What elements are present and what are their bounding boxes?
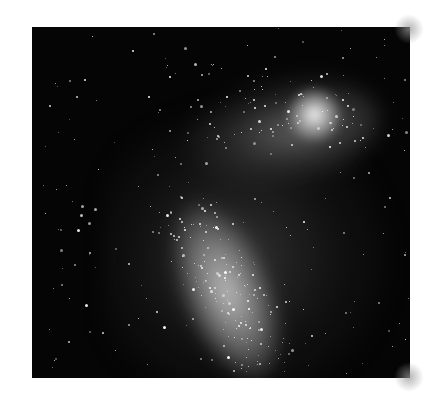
star bbox=[345, 312, 347, 314]
star bbox=[305, 343, 306, 344]
star bbox=[399, 323, 400, 324]
star bbox=[228, 302, 231, 305]
star bbox=[96, 100, 97, 101]
star bbox=[342, 99, 344, 101]
star bbox=[43, 185, 44, 186]
star bbox=[203, 198, 204, 199]
star bbox=[165, 58, 166, 59]
star bbox=[49, 329, 50, 330]
star bbox=[254, 198, 256, 200]
star bbox=[212, 65, 213, 66]
star bbox=[235, 320, 236, 321]
star bbox=[205, 162, 208, 165]
star bbox=[285, 323, 286, 324]
star bbox=[404, 150, 405, 151]
star bbox=[378, 302, 380, 304]
star bbox=[329, 122, 331, 124]
star bbox=[253, 142, 256, 145]
star bbox=[240, 322, 242, 324]
star bbox=[98, 169, 99, 170]
star bbox=[55, 358, 57, 360]
star bbox=[262, 89, 263, 90]
star bbox=[270, 336, 271, 337]
star bbox=[341, 30, 342, 31]
star bbox=[246, 371, 247, 372]
star bbox=[404, 79, 406, 81]
star bbox=[339, 142, 341, 144]
star bbox=[153, 33, 155, 35]
star bbox=[223, 329, 224, 330]
star bbox=[384, 45, 385, 46]
star bbox=[282, 342, 283, 343]
star bbox=[360, 140, 361, 141]
star bbox=[246, 342, 247, 343]
star bbox=[94, 208, 97, 211]
star bbox=[200, 358, 202, 360]
star bbox=[284, 362, 285, 363]
star bbox=[160, 227, 161, 228]
star bbox=[180, 196, 182, 198]
star bbox=[197, 99, 199, 101]
star bbox=[274, 56, 276, 58]
star bbox=[55, 83, 56, 84]
star bbox=[179, 218, 181, 220]
star bbox=[208, 73, 210, 75]
star bbox=[258, 120, 261, 123]
star bbox=[353, 177, 355, 179]
star bbox=[365, 147, 366, 148]
star bbox=[384, 206, 386, 208]
star bbox=[343, 75, 344, 76]
star bbox=[190, 106, 192, 108]
star bbox=[290, 81, 291, 82]
star bbox=[210, 111, 212, 113]
star bbox=[343, 232, 345, 234]
star bbox=[352, 123, 353, 124]
star bbox=[204, 210, 206, 212]
star bbox=[69, 80, 71, 82]
star bbox=[89, 331, 91, 333]
star bbox=[66, 185, 67, 186]
star bbox=[241, 368, 242, 369]
star bbox=[384, 39, 385, 40]
star bbox=[52, 367, 53, 368]
star bbox=[68, 341, 70, 343]
star bbox=[169, 76, 171, 78]
star bbox=[342, 125, 343, 126]
star bbox=[138, 186, 139, 187]
star bbox=[259, 132, 260, 133]
star bbox=[265, 68, 267, 70]
star bbox=[241, 316, 242, 317]
star bbox=[320, 75, 323, 78]
star bbox=[211, 64, 212, 65]
star bbox=[248, 349, 249, 350]
star bbox=[270, 314, 271, 315]
star bbox=[326, 73, 328, 75]
star bbox=[187, 273, 188, 274]
star bbox=[392, 129, 393, 130]
star bbox=[81, 205, 84, 208]
star bbox=[187, 132, 189, 134]
star bbox=[408, 298, 409, 299]
star bbox=[221, 68, 222, 69]
star bbox=[88, 222, 91, 225]
star bbox=[235, 362, 236, 363]
star bbox=[258, 355, 259, 356]
star bbox=[190, 237, 191, 238]
star bbox=[342, 57, 344, 59]
star bbox=[58, 229, 59, 230]
star bbox=[335, 115, 338, 118]
star bbox=[210, 204, 212, 206]
star bbox=[128, 263, 130, 265]
star bbox=[259, 287, 261, 289]
star bbox=[56, 189, 57, 190]
star bbox=[275, 94, 276, 95]
star bbox=[254, 107, 256, 109]
star bbox=[243, 222, 244, 223]
star bbox=[207, 247, 209, 249]
star bbox=[393, 102, 394, 103]
star bbox=[216, 138, 218, 140]
star bbox=[72, 201, 73, 202]
star bbox=[384, 78, 385, 79]
star bbox=[148, 96, 150, 98]
star bbox=[195, 277, 196, 278]
